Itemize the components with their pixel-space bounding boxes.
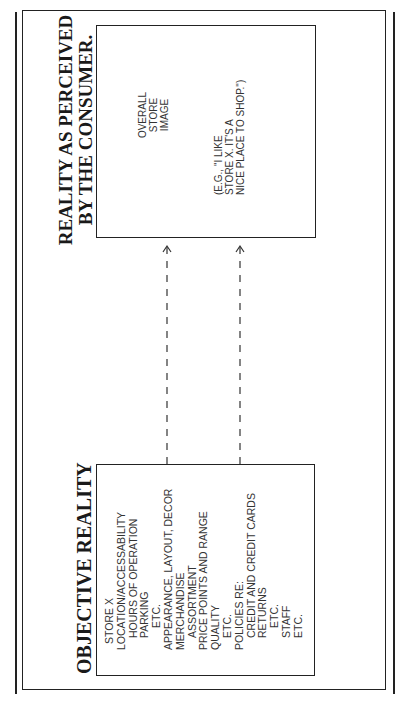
objective-item: STAFF	[281, 450, 293, 650]
objective-item: LOCATION/ACCESSABILITY	[116, 450, 128, 650]
arrow-2	[236, 246, 244, 464]
objective-item: MERCHANDISE	[175, 450, 187, 650]
objective-item: ETC.	[293, 450, 305, 650]
objective-item: POLICIES RE:	[234, 450, 246, 650]
objective-item: ETC.	[222, 450, 234, 650]
arrow-1	[163, 246, 171, 464]
objective-items-list: STORE XLOCATION/ACCESSABILITYHOURS OF OP…	[104, 450, 305, 650]
diagram-page: REALITY AS PERCEIVED BY THE CONSUMER. OV…	[0, 0, 405, 708]
objective-item: APPEARANCE, LAYOUT, DECOR	[163, 450, 175, 650]
objective-title: OBJECTIVE REALITY	[74, 454, 94, 674]
